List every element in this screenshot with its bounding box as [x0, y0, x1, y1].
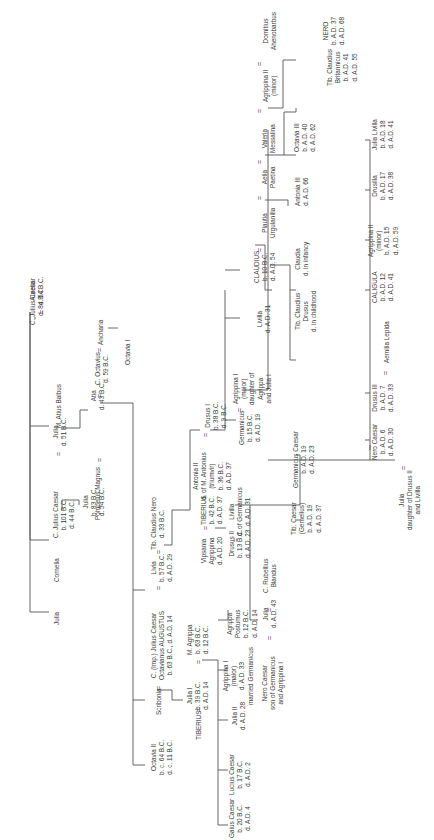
person-name: Agrippa	[226, 610, 234, 638]
person-name: Gaius Caesar	[228, 799, 236, 838]
person-name: Ancharia	[97, 320, 105, 345]
person-name: Octavia III	[293, 123, 301, 152]
person-name: Julia	[82, 488, 90, 516]
person-parent: son of Germanicus	[269, 656, 277, 710]
person-name: Tib. Claudius	[326, 49, 334, 86]
person-name: Livilla	[256, 305, 264, 333]
marriage-symbol: =	[202, 526, 209, 530]
person-agrippa-postumus: Agrippa Postumus b. 12 B.C. d. A.D. 14	[226, 610, 259, 638]
marriage-symbol: =	[155, 550, 162, 554]
person-death: d. A.D. 62	[309, 123, 317, 152]
person-atius-balbus: M. Atius Balbus	[55, 384, 63, 428]
person-parent-2: and Agrippina I	[277, 656, 285, 710]
person-parent: d. of M. Antonius	[200, 452, 208, 500]
person-name: Agrippina I	[232, 373, 240, 405]
person-death: d. A.D. 37	[315, 502, 323, 535]
person-augustus: C. (Imp.) Julius Caesar Octavianus AUGUS…	[150, 611, 175, 680]
person-agrippina-ii: Agrippina II (minor) b. A.D. 15 d. A.D. …	[367, 225, 400, 257]
person-name: Pompeius Magnus	[94, 467, 102, 520]
person-note-2: Agrippa	[257, 373, 265, 405]
person-caligula: CALIGULA b. A.D. 12 d. A.D. 41	[371, 271, 396, 303]
person-name: Nero Caesar	[371, 424, 379, 460]
marriage-symbol: =	[96, 348, 103, 352]
marriage-symbol: =	[202, 433, 209, 437]
person-name: Julia	[262, 600, 270, 628]
person-death: d. A.D. 20	[216, 537, 224, 565]
person-death: d. A.D. 66	[302, 177, 310, 206]
person-birth: b. 17 B.C.	[236, 754, 244, 795]
person-livia: Livia b. 57 B.C. d. A.D. 29	[150, 554, 175, 582]
person-death: d. 12 B.C.	[202, 624, 210, 655]
person-tiberius-spouse-label: TIBERIUS	[195, 711, 203, 740]
person-claudius: CLAUDIUS b. 10 B.C. d. A.D. 54	[253, 251, 278, 283]
marriage-symbol: =	[195, 708, 202, 712]
marriage-symbol: =	[256, 62, 263, 66]
person-birth: b. A.D. 12	[379, 271, 387, 303]
marriage-symbol: =	[232, 538, 239, 542]
person-agrippina-ii-spouse: Agrippina II (minor)	[262, 70, 278, 102]
person-tiberius-gemellus: Tib. Caesar (Gemellus) b. A.D. 19 d. A.D…	[290, 502, 323, 535]
person-epithet: (maior)	[240, 373, 248, 405]
person-drusus-i: Drusus I b. 38 B.C. d. 9 B.C.	[204, 402, 229, 430]
person-birth: b. A.D. 19	[300, 431, 308, 488]
person-claudia: Claudia d. in infancy	[294, 242, 310, 276]
person-name: Julia I	[186, 682, 194, 710]
person-octavia-i: Octavia I	[124, 340, 132, 365]
person-birth: b. A.D. 15	[383, 225, 391, 257]
person-name: Agrippina II	[367, 225, 375, 257]
person-death: d. A.D. 59	[392, 225, 400, 257]
person-note: (triumvir)	[208, 452, 216, 500]
person-gaius-caesar: Gaius Caesar b. 20 B.C. d. A.D. 4	[228, 799, 253, 838]
person-julia-ii: Julia II d. A.D. 28	[231, 702, 247, 730]
person-death: d. 33 B.C.	[158, 497, 166, 550]
person-note: d. in childhood	[310, 291, 318, 332]
person-britannicus: Tib. Claudius Britannicus b. A.D. 41 d. …	[326, 49, 359, 86]
person-name: Tib. Claudius	[294, 291, 302, 332]
person-name: Lucius Caesar	[228, 754, 236, 795]
person-name: Livia	[150, 554, 158, 582]
person-aemilia-lepida: Aemilia Lepida	[383, 321, 391, 363]
person-name-2: Messalina	[269, 124, 277, 153]
person-plautia-urgulanilla: Plautia Urgulanilla	[261, 208, 277, 238]
marriage-symbol: =	[236, 408, 243, 412]
person-name: Agrippina II	[262, 70, 270, 102]
person-birth: b. 57 B.C.	[158, 554, 166, 582]
marriage-symbol: =	[400, 466, 407, 470]
person-birth: b. A.D. 41	[342, 49, 350, 86]
person-death: d. A.D. 31	[264, 305, 272, 333]
person-birth: b. A.D. 7	[379, 384, 387, 412]
person-dates: d. 54 B.C.	[37, 277, 45, 305]
person-name-2: Ahenobarbus	[270, 12, 278, 50]
person-aurelia: Aurelia d. 54 B.C.	[29, 277, 45, 305]
person-name: Cornelia	[53, 558, 61, 582]
person-death: d. 59 B.C.	[102, 352, 110, 385]
marriage-symbol: =	[195, 660, 202, 664]
person-parent: d. of Germanicus	[236, 487, 244, 536]
person-death: d. A.D. 38	[387, 172, 395, 200]
person-name-2: Drusus	[302, 291, 310, 332]
person-death: d. A.D. 28	[239, 702, 247, 730]
person-pompeius-magnus: Pompeius Magnus	[94, 467, 102, 520]
person-vipsania: Vipsania Agrippina d. A.D. 20	[200, 537, 225, 565]
person-epithet: (minor)	[375, 225, 383, 257]
family-tree-diagram: C. Julius Caesar d. 84 B.C. Aurelia d. 5…	[0, 0, 434, 840]
marriage-symbol: =	[155, 586, 162, 590]
person-antonia-iii: Antonia III d. A.D. 66	[294, 177, 310, 206]
person-birth: b. A.D. 18	[379, 119, 387, 150]
person-name: C. Rubellius	[262, 559, 270, 593]
person-tib-claudius-drusus: Tib. Claudius Drusus d. in childhood	[294, 291, 319, 332]
person-name: Germanicus	[238, 411, 246, 445]
person-name: Julia Livilla	[371, 119, 379, 150]
person-death: d. A.D. 4	[244, 799, 252, 838]
person-livilla: Livilla d. A.D. 31	[256, 305, 272, 333]
person-name: Scribonia	[155, 688, 163, 715]
person-birth: b. 10 B.C.	[261, 251, 269, 283]
person-valeria-messalina: Valeria Messalina	[261, 124, 277, 153]
person-lucius-caesar: Lucius Caesar b. 17 B.C. d. A.D. 2	[228, 754, 253, 795]
person-name: Livilla	[228, 487, 236, 536]
person-name: C. Octavius	[94, 352, 102, 385]
person-ancharia: Ancharia	[97, 320, 105, 345]
person-drusilla: Drusilla b. A.D. 17 d. A.D. 38	[371, 172, 396, 200]
person-scribonia: Scribonia	[155, 688, 163, 715]
marriage-symbol: =	[256, 109, 263, 113]
